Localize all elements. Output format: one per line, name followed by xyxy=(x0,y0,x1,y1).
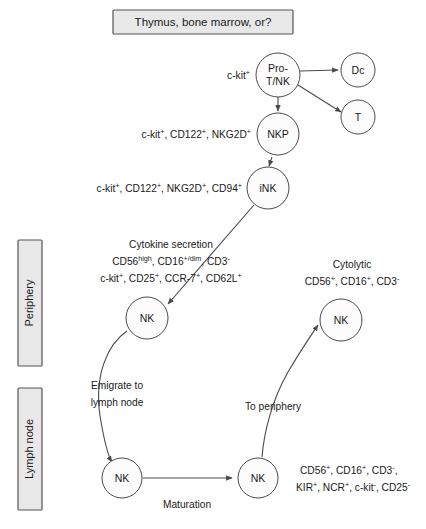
label-to-periphery: To periphery xyxy=(245,401,302,412)
node-nkp[interactable]: NKP xyxy=(257,113,299,155)
band-periphery: Periphery xyxy=(18,240,42,366)
node-pro-t-nk[interactable]: Pro- T/NK xyxy=(256,53,300,97)
node-nk-lymph-node-immature[interactable]: NK xyxy=(102,458,142,498)
node-nkp-label: NKP xyxy=(267,128,289,140)
node-t[interactable]: T xyxy=(341,100,375,134)
node-dc[interactable]: Dc xyxy=(341,53,375,87)
band-lymph-node-label: Lymph node xyxy=(23,419,35,479)
edge-protnk-to-dc xyxy=(300,70,338,71)
label-maturation: Maturation xyxy=(163,499,211,510)
node-nk-cytolytic[interactable]: NK xyxy=(320,299,362,341)
node-nk-cytokine-label: NK xyxy=(140,312,155,324)
node-nk-lymph-node-immature-label: NK xyxy=(115,472,130,484)
origin-title-box: Thymus, bone marrow, or? xyxy=(113,10,293,34)
node-ink-label: iNK xyxy=(260,182,277,194)
marker-list-ink: c-kit+, CD122+, NKG2D+, CD94+ xyxy=(97,181,242,195)
marker-list-cytokine-line1: CD56high, CD16+/dim, CD3- xyxy=(112,254,230,268)
marker-sup: + xyxy=(246,68,250,77)
marker-list-mature-line1: CD56+, CD16+, CD3-, xyxy=(300,463,397,477)
label-emigrate-line1: Emigrate to xyxy=(91,380,143,391)
marker-list-cytokine-line2: c-kit+, CD25+, CCR-7+, CD62L+ xyxy=(100,271,241,285)
marker-list-nkp: c-kit+, CD122+, NKG2D+ xyxy=(142,127,251,141)
node-pro-t-nk-label-line2: T/NK xyxy=(266,75,290,87)
nk-cell-development-diagram: Thymus, bone marrow, or? Periphery Lymph… xyxy=(0,0,426,529)
node-dc-label: Dc xyxy=(352,64,365,76)
label-emigrate-line2: lymph node xyxy=(91,397,144,408)
edge-nkp-to-ink xyxy=(269,157,272,166)
label-cytolytic-heading: Cytolytic xyxy=(333,259,372,270)
figure-canvas: Thymus, bone marrow, or? Periphery Lymph… xyxy=(0,0,426,529)
node-t-label: T xyxy=(355,111,362,123)
node-pro-t-nk-label-line1: Pro- xyxy=(268,62,288,74)
label-cytokine-secretion-heading: Cytokine secretion xyxy=(129,239,213,250)
node-nk-lymph-node-mature[interactable]: NK xyxy=(238,458,278,498)
node-nk-cytokine[interactable]: NK xyxy=(126,297,168,339)
node-nk-cytolytic-label: NK xyxy=(334,314,349,326)
marker-list-mature-line2: KIR+, NCR+, c-kit-, CD25- xyxy=(296,480,411,494)
marker-list-pro-t-nk: c-kit+ xyxy=(227,68,250,82)
band-lymph-node: Lymph node xyxy=(18,388,42,510)
edge-protnk-to-t xyxy=(298,85,341,112)
edge-to-periphery xyxy=(262,325,318,457)
marker-base: c-kit xyxy=(227,70,246,81)
node-nk-lymph-node-mature-label: NK xyxy=(251,472,266,484)
node-ink[interactable]: iNK xyxy=(247,167,289,209)
marker-list-cytolytic-line1: CD56+, CD16+, CD3- xyxy=(305,274,400,288)
band-periphery-label: Periphery xyxy=(23,279,35,327)
origin-title-text: Thymus, bone marrow, or? xyxy=(135,16,272,28)
edge-ink-to-cytokine-nk xyxy=(168,205,254,304)
